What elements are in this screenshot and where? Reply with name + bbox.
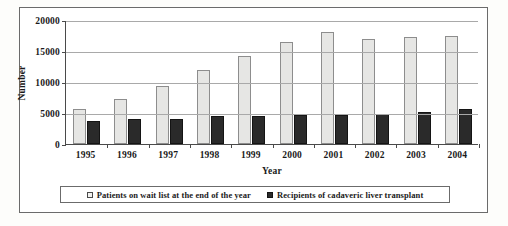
y-tick-mark [62, 114, 66, 115]
bar-recipients [335, 115, 348, 144]
gridline [66, 52, 478, 53]
bar-recipients [418, 112, 431, 144]
x-tick-label: 1996 [117, 150, 137, 160]
y-axis-title: Number [17, 66, 27, 101]
y-tick-label: 15000 [35, 47, 60, 57]
x-tick-mark [231, 144, 232, 148]
x-tick-mark [273, 144, 274, 148]
gridline [66, 114, 478, 115]
legend-item-waitlist: Patients on wait list at the end of the … [87, 190, 251, 200]
bar-waitlist [114, 99, 127, 144]
y-tick-mark [62, 145, 66, 146]
bar-recipients [170, 119, 183, 144]
bar-waitlist [280, 42, 293, 144]
y-tick-mark [62, 52, 66, 53]
bar-waitlist [238, 56, 251, 144]
y-tick-label: 0 [55, 140, 60, 150]
bar-recipients [211, 116, 224, 144]
gridline [66, 21, 478, 22]
bar-recipients [294, 115, 307, 144]
x-tick-mark [107, 144, 108, 148]
plot-area: 05000100001500020000 [65, 21, 478, 145]
filled-square-marker-icon [267, 192, 273, 198]
bar-recipients [87, 121, 100, 144]
y-tick-mark [62, 83, 66, 84]
chart-figure: Number 05000100001500020000 Year Patient… [0, 0, 508, 226]
x-tick-label: 2003 [406, 150, 426, 160]
chart-legend: Patients on wait list at the end of the … [60, 186, 450, 203]
x-tick-label: 2000 [282, 150, 302, 160]
bar-waitlist [197, 70, 210, 144]
x-tick-mark [355, 144, 356, 148]
legend-label-recipients: Recipients of cadaveric liver transplant [277, 190, 423, 200]
x-axis-title: Year [262, 166, 282, 176]
x-tick-label: 1998 [200, 150, 220, 160]
y-tick-mark [62, 21, 66, 22]
bar-waitlist [321, 32, 334, 144]
y-tick-label: 5000 [40, 109, 60, 119]
x-tick-label: 2004 [447, 150, 467, 160]
gridline [66, 83, 478, 84]
x-tick-label: 1997 [158, 150, 178, 160]
x-tick-mark [190, 144, 191, 148]
x-tick-mark [149, 144, 150, 148]
legend-label-waitlist: Patients on wait list at the end of the … [97, 190, 251, 200]
x-tick-label: 1995 [76, 150, 96, 160]
bar-recipients [376, 114, 389, 144]
x-tick-label: 1999 [241, 150, 261, 160]
x-tick-label: 2002 [365, 150, 385, 160]
bar-recipients [128, 119, 141, 144]
y-tick-label: 20000 [35, 16, 60, 26]
legend-item-recipients: Recipients of cadaveric liver transplant [267, 190, 423, 200]
open-square-marker-icon [87, 192, 93, 198]
x-tick-mark [314, 144, 315, 148]
x-tick-mark [479, 144, 480, 148]
bar-waitlist [362, 39, 375, 144]
y-tick-label: 10000 [35, 78, 60, 88]
x-tick-mark [396, 144, 397, 148]
x-tick-mark [438, 144, 439, 148]
x-tick-label: 2001 [324, 150, 344, 160]
bar-recipients [252, 116, 265, 144]
bar-waitlist [404, 37, 417, 144]
